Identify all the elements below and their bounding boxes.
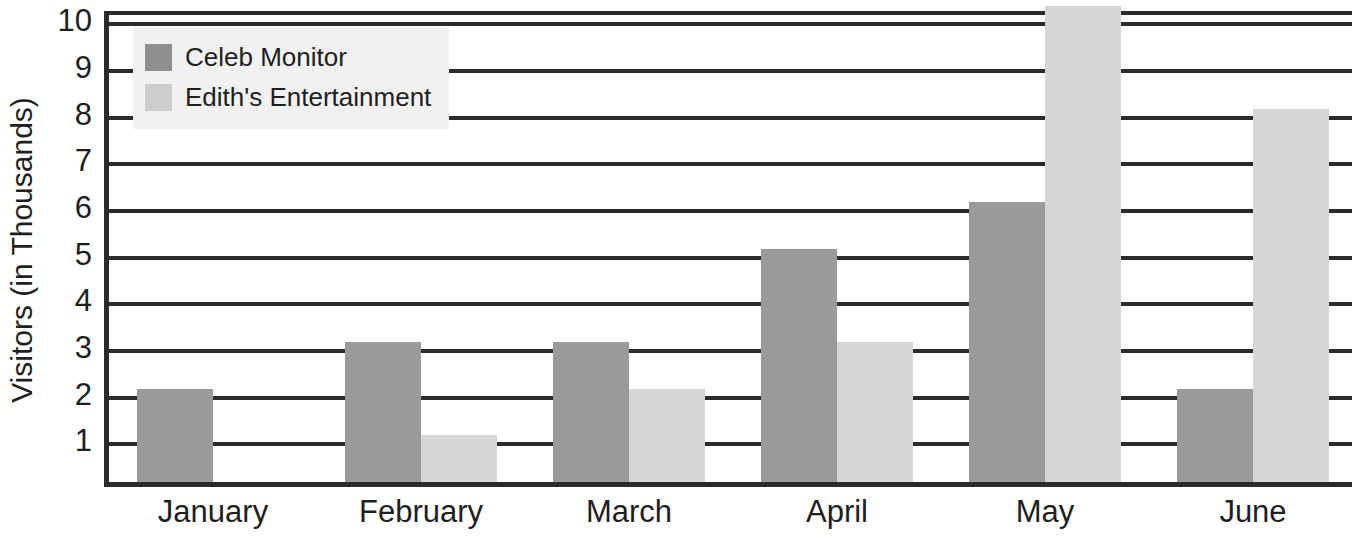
bar — [553, 342, 629, 482]
chart-legend: Celeb MonitorEdith's Entertainment — [133, 27, 449, 129]
bar — [969, 202, 1045, 482]
bar — [761, 249, 837, 482]
legend-label: Edith's Entertainment — [185, 84, 431, 110]
y-tick-label: 8 — [75, 98, 92, 129]
x-tick-label: January — [158, 496, 268, 527]
bar-group — [969, 15, 1121, 482]
y-axis-title: Visitors (in Thousands) — [0, 0, 44, 500]
legend-label: Celeb Monitor — [185, 44, 347, 70]
x-tick-label: April — [806, 496, 868, 527]
bar — [345, 342, 421, 482]
bar-chart: Visitors (in Thousands) 10987654321 Cele… — [0, 0, 1356, 557]
bar — [137, 389, 213, 482]
bar — [1045, 6, 1121, 482]
y-tick-label: 6 — [75, 192, 92, 223]
bar-group — [761, 15, 913, 482]
y-axis-tick-labels: 10987654321 — [44, 11, 102, 487]
legend-entry: Edith's Entertainment — [145, 77, 431, 117]
x-tick-label: March — [586, 496, 672, 527]
y-tick-label: 5 — [75, 238, 92, 269]
legend-swatch-icon — [145, 84, 172, 111]
y-tick-label: 9 — [75, 52, 92, 83]
x-axis-tick-labels: JanuaryFebruaryMarchAprilMayJune — [109, 492, 1352, 550]
bar — [629, 389, 705, 482]
bar-group — [1177, 15, 1329, 482]
y-axis-title-text: Visitors (in Thousands) — [5, 97, 39, 403]
bar — [837, 342, 913, 482]
bar — [1177, 389, 1253, 482]
legend-swatch-icon — [145, 44, 172, 71]
x-tick-label: February — [359, 496, 483, 527]
y-tick-label: 2 — [75, 378, 92, 409]
x-tick-label: May — [1016, 496, 1075, 527]
y-tick-label: 7 — [75, 145, 92, 176]
x-tick-label: June — [1219, 496, 1286, 527]
bar-group — [553, 15, 705, 482]
legend-entry: Celeb Monitor — [145, 37, 431, 77]
y-tick-label: 10 — [58, 5, 92, 36]
y-tick-label: 1 — [75, 425, 92, 456]
y-tick-label: 3 — [75, 332, 92, 363]
bar — [1253, 109, 1329, 482]
plot-area: Celeb MonitorEdith's Entertainment — [104, 11, 1352, 487]
bar — [421, 435, 497, 482]
y-tick-label: 4 — [75, 285, 92, 316]
